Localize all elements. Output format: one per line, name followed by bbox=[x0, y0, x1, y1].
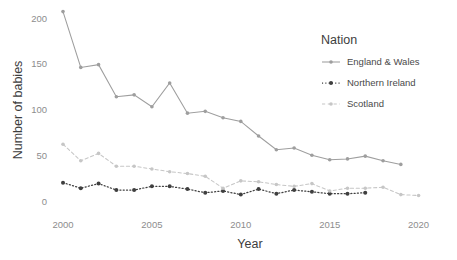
data-point bbox=[274, 192, 278, 196]
data-point bbox=[132, 164, 136, 168]
data-point bbox=[310, 182, 314, 186]
data-point bbox=[132, 93, 136, 97]
data-point bbox=[115, 95, 119, 99]
y-tick-label: 100 bbox=[31, 104, 47, 115]
x-axis-title: Year bbox=[237, 237, 262, 251]
data-point bbox=[203, 110, 207, 114]
series-northern-ireland bbox=[61, 181, 367, 197]
legend-title: Nation bbox=[321, 33, 357, 47]
y-tick-label: 200 bbox=[31, 13, 47, 24]
data-point bbox=[275, 148, 279, 152]
line-chart-plot: 200150100500 20002005201020152020 Number… bbox=[0, 0, 457, 260]
legend-key-point bbox=[329, 102, 333, 106]
data-point bbox=[97, 63, 101, 67]
data-point bbox=[221, 116, 225, 120]
data-point bbox=[168, 184, 172, 188]
data-point bbox=[114, 188, 118, 192]
data-point bbox=[310, 153, 314, 157]
data-point bbox=[239, 193, 243, 197]
legend-item-label: Northern Ireland bbox=[347, 77, 416, 88]
data-point bbox=[132, 188, 136, 192]
y-tick-label: 50 bbox=[36, 150, 47, 161]
data-point bbox=[310, 190, 314, 194]
data-point bbox=[221, 186, 225, 190]
chart-container: 200150100500 20002005201020152020 Number… bbox=[0, 0, 457, 260]
data-point bbox=[79, 186, 83, 190]
data-point bbox=[328, 158, 332, 162]
data-point bbox=[97, 152, 101, 156]
data-point bbox=[381, 185, 385, 189]
data-point bbox=[168, 170, 172, 174]
legend-item-label: Scotland bbox=[347, 98, 384, 109]
legend-item-northern-ireland[interactable]: Northern Ireland bbox=[322, 77, 416, 88]
data-point bbox=[97, 182, 101, 186]
data-point bbox=[257, 187, 261, 191]
data-point bbox=[417, 194, 421, 198]
y-tick-label: 150 bbox=[31, 58, 47, 69]
x-tick-label: 2010 bbox=[230, 219, 251, 230]
data-point bbox=[257, 134, 261, 138]
data-point bbox=[399, 163, 403, 167]
data-point bbox=[186, 172, 190, 176]
data-point bbox=[61, 181, 65, 185]
data-point bbox=[328, 189, 332, 193]
legend-key-point bbox=[329, 81, 333, 85]
data-point bbox=[346, 157, 350, 161]
x-tick-label: 2020 bbox=[408, 219, 429, 230]
legend-item-england-wales[interactable]: England & Wales bbox=[322, 56, 420, 67]
data-point bbox=[168, 81, 172, 85]
data-point bbox=[79, 66, 83, 70]
x-tick-label: 2000 bbox=[52, 219, 73, 230]
data-point bbox=[292, 146, 296, 150]
data-point bbox=[203, 174, 207, 178]
data-point bbox=[61, 142, 65, 146]
data-point bbox=[399, 193, 403, 197]
data-point bbox=[257, 180, 261, 184]
data-point bbox=[345, 192, 349, 196]
data-point bbox=[79, 159, 83, 163]
data-point bbox=[381, 159, 385, 163]
data-point bbox=[186, 111, 190, 115]
data-point bbox=[363, 191, 367, 195]
data-point bbox=[150, 105, 154, 109]
data-point bbox=[363, 154, 367, 158]
series-line bbox=[63, 183, 365, 195]
data-point bbox=[150, 184, 154, 188]
x-tick-label: 2005 bbox=[141, 219, 162, 230]
y-axis-tick-labels: 200150100500 bbox=[31, 13, 47, 207]
legend-item-scotland[interactable]: Scotland bbox=[322, 98, 384, 109]
data-point bbox=[150, 167, 154, 171]
data-point bbox=[185, 187, 189, 191]
x-tick-label: 2015 bbox=[319, 219, 340, 230]
y-tick-label: 0 bbox=[42, 196, 47, 207]
data-point bbox=[115, 164, 119, 168]
data-point bbox=[239, 120, 243, 124]
chart-legend: Nation England & WalesNorthern IrelandSc… bbox=[321, 33, 420, 109]
data-point bbox=[346, 186, 350, 190]
legend-key-point bbox=[329, 60, 333, 64]
data-point bbox=[275, 183, 279, 187]
x-axis-tick-labels: 20002005201020152020 bbox=[52, 219, 429, 230]
data-point bbox=[292, 185, 296, 189]
data-point bbox=[363, 186, 367, 190]
data-point bbox=[61, 10, 65, 14]
legend-item-label: England & Wales bbox=[347, 56, 420, 67]
data-point bbox=[292, 188, 296, 192]
y-axis-title: Number of babies bbox=[11, 61, 25, 160]
data-point bbox=[239, 179, 243, 183]
legend-entry-list: England & WalesNorthern IrelandScotland bbox=[322, 56, 420, 109]
data-point bbox=[203, 191, 207, 195]
